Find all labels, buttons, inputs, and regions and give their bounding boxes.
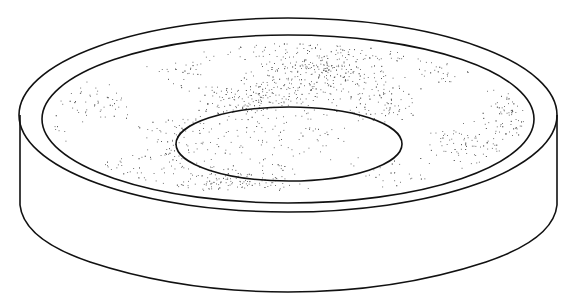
dish-line-drawing: circular dish-shaped pad with raised out… [0,0,576,302]
outer-rim [19,18,557,212]
center-disc [176,107,402,181]
drawing-canvas [0,0,576,302]
stipple-shading [55,43,524,191]
inner-rim [42,35,534,203]
